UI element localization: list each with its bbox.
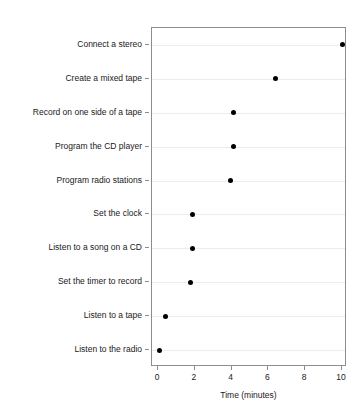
x-axis-tick-mark: [157, 366, 158, 370]
y-axis-label: Program radio stations: [0, 175, 147, 185]
y-axis-tick-mark: [145, 247, 149, 248]
y-axis-label: Program the CD player: [0, 141, 147, 151]
x-axis-tick-label: 2: [179, 372, 209, 382]
x-axis-title: Time (minutes): [151, 390, 346, 401]
x-axis-tick-label: 10: [326, 372, 356, 382]
y-axis-category-labels: Connect a stereoCreate a mixed tapeRecor…: [0, 27, 147, 366]
x-axis-tick-mark: [341, 366, 342, 370]
y-axis-tick-mark: [145, 281, 149, 282]
y-axis-tick-mark: [145, 112, 149, 113]
y-axis-tick-mark: [145, 315, 149, 316]
y-axis-label: Listen to a tape: [0, 310, 147, 320]
data-point: [231, 110, 236, 115]
y-axis-label: Connect a stereo: [0, 39, 147, 49]
data-point: [190, 212, 195, 217]
y-axis-label: Create a mixed tape: [0, 73, 147, 83]
data-point: [163, 314, 168, 319]
y-axis-tick-mark: [145, 146, 149, 147]
x-axis-tick-label: 4: [216, 372, 246, 382]
x-axis-tick-mark: [267, 366, 268, 370]
y-axis-tick-mark: [145, 78, 149, 79]
data-point: [188, 280, 193, 285]
data-point: [231, 144, 236, 149]
y-axis-tick-mark: [145, 44, 149, 45]
y-axis-tick-mark: [145, 213, 149, 214]
y-axis-tick-mark: [145, 349, 149, 350]
y-axis-label: Listen to a song on a CD: [0, 242, 147, 252]
plot-panel: [151, 27, 346, 366]
data-point: [190, 246, 195, 251]
data-point: [340, 42, 345, 47]
x-axis-tick-label: 6: [252, 372, 282, 382]
data-points-layer: [152, 28, 345, 365]
data-point: [273, 76, 278, 81]
x-axis-tick-mark: [231, 366, 232, 370]
y-axis-label: Listen to the radio: [0, 344, 147, 354]
x-axis-tick-label: 0: [142, 372, 172, 382]
data-point: [228, 178, 233, 183]
chart-figure: Connect a stereoCreate a mixed tapeRecor…: [0, 0, 364, 416]
x-axis-ticks: 0246810: [0, 366, 364, 386]
y-axis-tick-mark: [145, 180, 149, 181]
x-axis-tick-label: 8: [289, 372, 319, 382]
y-axis-label: Record on one side of a tape: [0, 107, 147, 117]
y-axis-label: Set the timer to record: [0, 276, 147, 286]
data-point: [157, 348, 162, 353]
x-axis-tick-mark: [304, 366, 305, 370]
x-axis-tick-mark: [194, 366, 195, 370]
chart-title-strip: [0, 0, 364, 5]
y-axis-label: Set the clock: [0, 208, 147, 218]
